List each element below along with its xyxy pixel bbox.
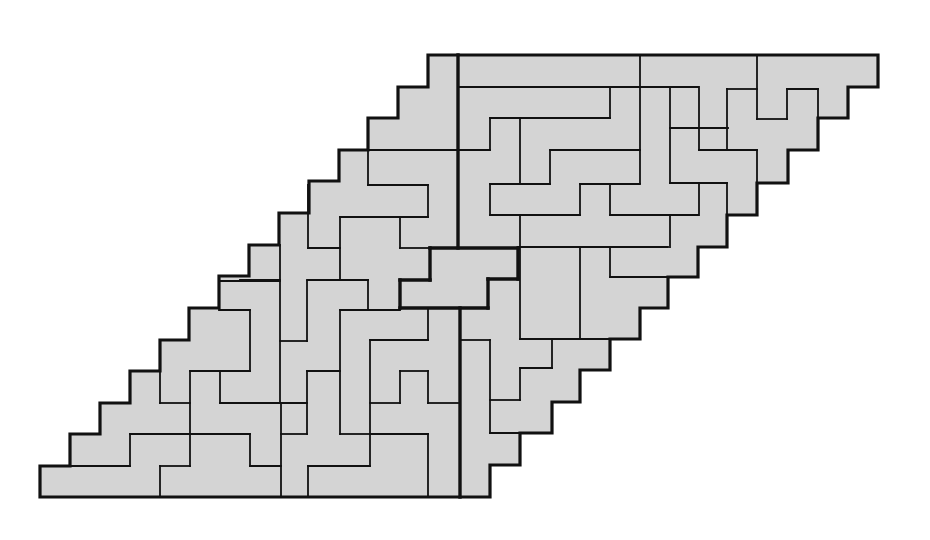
tiling-diagram: [0, 0, 930, 540]
figure-canvas: [0, 0, 930, 540]
